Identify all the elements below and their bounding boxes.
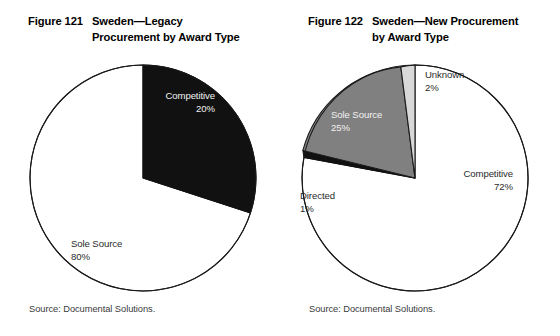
pie-chart-122: Unknown 2% Sole Source 25% Directed 1% C… — [280, 56, 560, 300]
figure-page: Figure 121 Sweden—Legacy Procurement by … — [0, 0, 560, 336]
pie-label-sole-source-name: Sole Source — [71, 238, 122, 249]
figure-121-title: Sweden—Legacy Procurement by Award Type — [92, 14, 252, 45]
pie-label-directed-value: 1% — [300, 203, 314, 214]
pie-label-sole-source-value: 25% — [331, 122, 350, 133]
pie-chart-121-svg: Competitive 20% Sole Source 80% — [0, 56, 280, 300]
pie-chart-122-svg: Unknown 2% Sole Source 25% Directed 1% C… — [280, 56, 560, 300]
figure-122-number: Figure 122 — [308, 14, 363, 30]
pie-chart-121: Competitive 20% Sole Source 80% — [0, 56, 280, 300]
pie-label-competitive-name: Competitive — [165, 90, 215, 101]
pie-label-competitive-value: 20% — [196, 103, 215, 114]
figure-panel-121: Figure 121 Sweden—Legacy Procurement by … — [0, 0, 280, 336]
figure-122-title: Sweden—New Procurement by Award Type — [372, 14, 532, 45]
pie-label-directed-name: Directed — [300, 190, 335, 201]
pie-label-sole-source-name: Sole Source — [331, 109, 382, 120]
pie-label-competitive-name: Competitive — [463, 168, 513, 179]
figure-122-source: Source: Documental Solutions. — [309, 304, 435, 314]
figure-122-heading: Figure 122 Sweden—New Procurement by Awa… — [308, 14, 548, 45]
figure-panel-122: Figure 122 Sweden—New Procurement by Awa… — [280, 0, 560, 336]
figure-121-number: Figure 121 — [28, 14, 83, 30]
pie-label-competitive-value: 72% — [494, 181, 513, 192]
figure-121-source: Source: Documental Solutions. — [29, 304, 155, 314]
pie-label-unknown-value: 2% — [425, 82, 439, 93]
figure-121-heading: Figure 121 Sweden—Legacy Procurement by … — [28, 14, 268, 45]
pie-label-sole-source-value: 80% — [71, 251, 90, 262]
pie-label-unknown-name: Unknown — [425, 69, 464, 80]
